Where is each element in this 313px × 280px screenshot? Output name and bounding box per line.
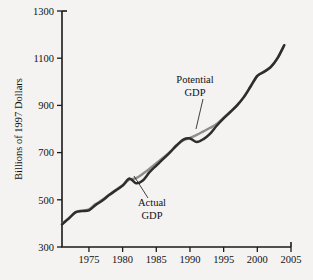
y-axis-title: Billions of 1997 Dollars xyxy=(13,78,24,180)
x-axis-tick-label: 1975 xyxy=(78,254,99,265)
x-axis-tick-label: 2000 xyxy=(247,254,268,265)
annotation-label: GDP xyxy=(184,87,205,98)
series-line-potential-gdp xyxy=(62,45,284,224)
y-axis-tick-label: 500 xyxy=(38,195,54,206)
y-axis-tick-label: 1300 xyxy=(33,6,54,17)
annotation-label: Potential xyxy=(176,74,213,85)
y-axis-tick-label: 900 xyxy=(38,100,54,111)
chart-canvas: 3005007009001100130019751980198519901995… xyxy=(0,0,313,280)
y-axis-tick-label: 1100 xyxy=(33,53,54,64)
x-axis-tick-label: 1990 xyxy=(179,254,200,265)
y-axis-tick-label: 700 xyxy=(38,147,54,158)
x-axis-tick-label: 1995 xyxy=(213,254,234,265)
x-axis-tick-label: 2005 xyxy=(281,254,302,265)
x-axis-tick-label: 1980 xyxy=(112,254,133,265)
series-line-actual-gdp xyxy=(62,45,284,224)
annotation-leader-line xyxy=(134,176,148,198)
axis-spines xyxy=(62,11,291,247)
annotation-leader-line xyxy=(196,99,203,129)
y-axis-tick-label: 300 xyxy=(38,242,54,253)
annotation-label: GDP xyxy=(141,210,162,221)
gdp-chart-figure: 3005007009001100130019751980198519901995… xyxy=(0,0,313,280)
annotation-label: Actual xyxy=(138,197,166,208)
x-axis-tick-label: 1985 xyxy=(146,254,167,265)
